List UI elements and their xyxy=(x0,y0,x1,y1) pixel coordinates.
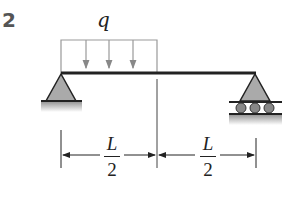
distributed-load xyxy=(61,40,157,73)
dimension-right: L 2 xyxy=(198,134,218,179)
dimension-lines xyxy=(61,130,256,168)
roller-support xyxy=(229,74,282,125)
dimension-left: L 2 xyxy=(102,134,122,179)
diagram-graphics xyxy=(0,0,295,199)
pin-support xyxy=(41,74,82,112)
beam-diagram: 2 q xyxy=(0,0,295,199)
